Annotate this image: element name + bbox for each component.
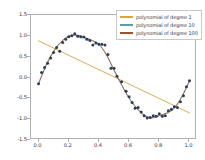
scatter-point xyxy=(67,35,70,38)
x-tick-mark xyxy=(128,139,129,142)
scatter-point xyxy=(161,115,164,118)
scatter-point xyxy=(91,44,94,47)
x-axis-tick-labels: 0.00.20.40.60.81.0 xyxy=(0,142,205,154)
x-tick-label: 0.6 xyxy=(124,142,132,148)
scatter-point xyxy=(176,106,179,109)
scatter-point xyxy=(185,85,188,88)
y-tick-label: 1.0 xyxy=(19,32,27,38)
scatter-point xyxy=(109,67,112,70)
scatter-point xyxy=(49,56,52,59)
x-tick-label: 0.4 xyxy=(94,142,102,148)
scatter-point xyxy=(182,94,185,97)
scatter-point xyxy=(70,34,73,37)
scatter-point xyxy=(106,53,109,56)
scatter-point xyxy=(46,62,49,65)
chart-legend: polynomial of degree 1polynomial of degr… xyxy=(116,10,202,40)
x-tick-label: 0.2 xyxy=(64,142,72,148)
figure-canvas: 1.51.00.50.0-0.5-1.0-1.5 0.00.20.40.60.8… xyxy=(0,0,205,160)
scatter-point xyxy=(149,116,152,119)
scatter-point xyxy=(64,38,67,41)
y-tick-mark xyxy=(27,56,30,57)
y-tick-label: 0.5 xyxy=(19,53,27,59)
legend-item-label: polynomial of degree 100 xyxy=(136,30,198,36)
x-tick-mark xyxy=(98,139,99,142)
scatter-point xyxy=(143,114,146,117)
scatter-point xyxy=(152,114,155,117)
scatter-point xyxy=(52,51,55,54)
y-tick-label: -0.5 xyxy=(17,94,27,100)
legend-color-swatch xyxy=(120,16,133,17)
scatter-point xyxy=(43,66,46,69)
scatter-point xyxy=(120,80,123,83)
legend-item[interactable]: polynomial of degree 100 xyxy=(120,29,198,37)
scatter-point xyxy=(61,41,64,44)
x-tick-label: 1.0 xyxy=(184,142,192,148)
scatter-point xyxy=(40,71,43,74)
x-tick-mark xyxy=(38,139,39,142)
scatter-point xyxy=(55,46,58,49)
y-tick-mark xyxy=(27,35,30,36)
y-tick-label: -1.0 xyxy=(17,115,27,121)
scatter-point xyxy=(94,41,97,44)
x-tick-label: 0.8 xyxy=(154,142,162,148)
scatter-point xyxy=(167,109,170,112)
scatter-point xyxy=(116,75,119,78)
legend-color-swatch xyxy=(120,24,133,25)
y-tick-mark xyxy=(27,118,30,119)
legend-item-label: polynomial of degree 1 xyxy=(136,14,192,20)
scatter-point xyxy=(131,101,134,104)
x-tick-mark xyxy=(188,139,189,142)
scatter-point xyxy=(134,107,137,110)
scatter-points-layer xyxy=(37,32,191,119)
scatter-point xyxy=(179,100,182,103)
legend-item[interactable]: polynomial of degree 10 xyxy=(120,21,198,29)
scatter-point xyxy=(188,79,191,82)
scatter-point xyxy=(146,116,149,119)
scatter-point xyxy=(155,115,158,118)
scatter-point xyxy=(85,38,88,41)
scatter-point xyxy=(103,44,106,47)
y-axis-tick-labels: 1.51.00.50.0-0.5-1.0-1.5 xyxy=(0,0,27,160)
y-tick-mark xyxy=(27,77,30,78)
y-tick-mark xyxy=(27,139,30,140)
series-line-degree-1 xyxy=(39,41,190,113)
y-tick-label: 0.0 xyxy=(19,74,27,80)
legend-color-swatch xyxy=(120,32,133,33)
scatter-point xyxy=(79,35,82,38)
scatter-point xyxy=(97,43,100,46)
scatter-point xyxy=(58,50,61,53)
scatter-point xyxy=(170,108,173,111)
x-tick-mark xyxy=(68,139,69,142)
scatter-point xyxy=(37,82,40,85)
scatter-point xyxy=(128,95,131,98)
series-layer xyxy=(39,35,190,118)
scatter-point xyxy=(73,32,76,35)
y-tick-label: 1.5 xyxy=(19,11,27,17)
scatter-point xyxy=(173,105,176,108)
scatter-point xyxy=(125,90,128,93)
x-tick-mark xyxy=(158,139,159,142)
y-tick-mark xyxy=(27,97,30,98)
legend-item-label: polynomial of degree 10 xyxy=(136,22,195,28)
scatter-point xyxy=(158,112,161,115)
x-tick-label: 0.0 xyxy=(34,142,42,148)
scatter-point xyxy=(137,106,140,109)
scatter-point xyxy=(140,111,143,114)
y-tick-mark xyxy=(27,14,30,15)
scatter-point xyxy=(76,35,79,38)
scatter-point xyxy=(164,114,167,117)
legend-item[interactable]: polynomial of degree 1 xyxy=(120,13,198,21)
scatter-point xyxy=(88,39,91,42)
scatter-point xyxy=(100,43,103,46)
scatter-point xyxy=(82,36,85,39)
scatter-point xyxy=(113,67,116,70)
